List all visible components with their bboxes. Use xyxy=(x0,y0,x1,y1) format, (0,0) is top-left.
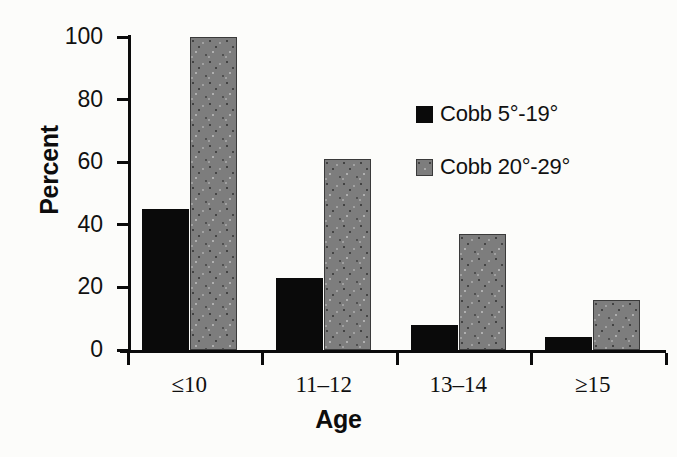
y-tick-mark xyxy=(117,161,128,164)
y-tick-label: 100 xyxy=(47,23,103,50)
bar-chart-figure: Percent 020406080100 ≤1011–1213–14≥15 Ag… xyxy=(0,0,677,457)
x-axis-tick-labels: ≤1011–1213–14≥15 xyxy=(128,372,666,406)
x-tick-mark xyxy=(530,353,533,365)
x-tick-label: ≥15 xyxy=(533,372,653,398)
y-tick-mark xyxy=(117,98,128,101)
chart-legend: Cobb 5°-19°Cobb 20°-29° xyxy=(416,101,646,207)
y-tick-mark xyxy=(117,36,128,39)
legend-item-0: Cobb 5°-19° xyxy=(416,101,646,127)
y-tick-mark xyxy=(117,223,128,226)
x-tick-mark xyxy=(127,353,130,365)
x-tick-label: 13–14 xyxy=(398,372,518,398)
x-tick-mark xyxy=(665,353,668,365)
y-tick-mark xyxy=(117,349,128,352)
bar-series1-3 xyxy=(545,337,592,350)
bar-series2-2 xyxy=(459,234,506,350)
y-tick-label: 20 xyxy=(47,273,103,300)
x-tick-mark xyxy=(261,353,264,365)
bar-series1-0 xyxy=(142,209,189,350)
x-tick-mark xyxy=(396,353,399,365)
bar-series2-1 xyxy=(324,159,371,350)
bar-series2-0 xyxy=(190,37,237,350)
legend-item-1: Cobb 20°-29° xyxy=(416,154,646,180)
x-axis-spine xyxy=(120,350,666,353)
y-tick-label: 80 xyxy=(47,86,103,113)
bar-series1-2 xyxy=(411,325,458,350)
bar-series2-3 xyxy=(593,300,640,350)
x-axis-title: Age xyxy=(0,405,677,434)
y-axis-tick-labels: 020406080100 xyxy=(47,0,103,457)
black-square-swatch xyxy=(416,106,433,123)
gray-stippled-square-swatch xyxy=(416,159,433,176)
x-tick-label: ≤10 xyxy=(129,372,249,398)
bar-series1-1 xyxy=(276,278,323,350)
y-tick-label: 40 xyxy=(47,211,103,238)
y-axis-spine xyxy=(128,35,131,352)
y-tick-mark xyxy=(117,286,128,289)
legend-item-label: Cobb 20°-29° xyxy=(440,154,570,180)
y-tick-label: 0 xyxy=(47,336,103,363)
x-tick-label: 11–12 xyxy=(264,372,384,398)
y-tick-label: 60 xyxy=(47,148,103,175)
legend-item-label: Cobb 5°-19° xyxy=(440,101,558,127)
